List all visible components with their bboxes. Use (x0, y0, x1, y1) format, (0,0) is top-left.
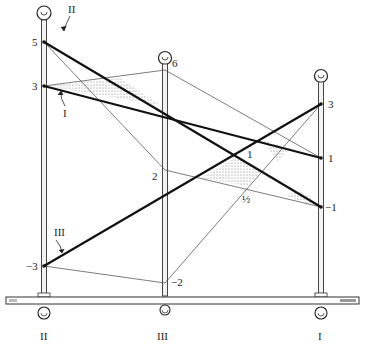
base-bar (6, 297, 359, 319)
line-II (44, 42, 321, 207)
pole-label-III: III (157, 330, 168, 342)
pole-label-II: II (40, 330, 48, 342)
mark-II-5: 5 (32, 36, 38, 48)
mark-II-3: 3 (32, 80, 38, 92)
line-label-I: I (63, 107, 67, 119)
mark-I-1: 1 (328, 152, 334, 164)
mark-III-2: 2 (152, 170, 158, 182)
mark-III-6: 6 (172, 57, 178, 69)
intersection-1: 1 (247, 148, 253, 160)
line-III (44, 104, 321, 266)
line-I (44, 86, 321, 158)
mark-I-neg1: −1 (325, 201, 337, 213)
pole-III (159, 52, 172, 297)
nomogram-diagram: II I III 5 3 −3 6 2 −2 3 1 −1 1 ½ II III… (0, 0, 369, 349)
line-label-II: II (68, 3, 76, 15)
pole-II (37, 6, 51, 297)
thin-lines (44, 42, 321, 283)
labels: II I III 5 3 −3 6 2 −2 3 1 −1 1 ½ II III… (26, 3, 337, 342)
pole-label-I: I (318, 330, 322, 342)
intersection-half: ½ (242, 193, 250, 205)
mark-II-neg3: −3 (26, 260, 38, 272)
line-label-III: III (54, 226, 65, 238)
mark-III-neg2: −2 (171, 276, 183, 288)
mark-I-3: 3 (328, 98, 334, 110)
